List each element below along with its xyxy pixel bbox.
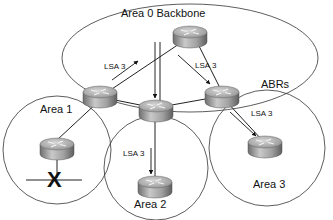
lsa-label: LSA 3 xyxy=(123,149,144,158)
area0-label: Area 0 Backbone xyxy=(121,7,205,19)
failure-x-icon: X xyxy=(47,169,62,191)
router-area2-internal xyxy=(138,176,172,198)
router-abr-area1 xyxy=(83,86,117,108)
router-area3-internal xyxy=(248,136,282,158)
area1-label: Area 1 xyxy=(40,103,72,115)
area2-label: Area 2 xyxy=(134,198,166,210)
router-backbone-core xyxy=(173,26,207,48)
abrs-callout: ABRs xyxy=(261,78,289,90)
ospf-lsa3-diagram: X Area 0 Backbone Area 1 Area 2 Area 3 A… xyxy=(0,0,333,220)
lsa-label: LSA 3 xyxy=(104,62,125,71)
router-abr-area3 xyxy=(205,86,239,108)
router-area1-internal xyxy=(40,138,74,160)
area3-label: Area 3 xyxy=(253,178,285,190)
lsa-label: LSA 3 xyxy=(195,61,216,70)
router-abr-area2 xyxy=(139,100,173,122)
lsa-label: LSA 3 xyxy=(251,109,272,118)
